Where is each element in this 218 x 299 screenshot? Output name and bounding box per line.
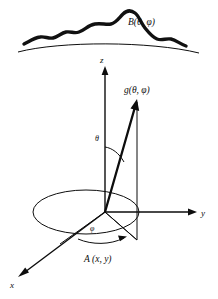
- projection-radial-line: [105, 212, 137, 240]
- brightness-distribution-curve: [24, 11, 186, 46]
- gain-label: g(θ, φ): [124, 85, 150, 96]
- brightness-label: B(θ, φ): [128, 17, 155, 28]
- gain-vector-arrowhead: [131, 99, 140, 111]
- x-axis-arrowhead: [18, 268, 29, 278]
- y-axis-arrowhead: [188, 209, 197, 216]
- y-axis-label: y: [200, 208, 205, 218]
- phi-angle-label: φ: [90, 224, 95, 233]
- phi-angle-arc: [78, 238, 124, 243]
- gain-direction-vector: [105, 107, 135, 212]
- theta-angle-label: θ: [95, 134, 99, 143]
- celestial-sphere-arc: [18, 44, 199, 53]
- x-axis-label: x: [9, 280, 14, 290]
- point-a-label: A (x, y): [83, 254, 112, 265]
- projection-extension-line: [60, 212, 105, 244]
- z-axis-arrowhead: [102, 66, 109, 75]
- z-axis-label: z: [99, 55, 104, 65]
- spherical-coordinate-diagram: B(θ, φ) z y x g(θ, φ) θ: [0, 0, 218, 299]
- diagram-canvas: B(θ, φ) z y x g(θ, φ) θ: [0, 0, 218, 299]
